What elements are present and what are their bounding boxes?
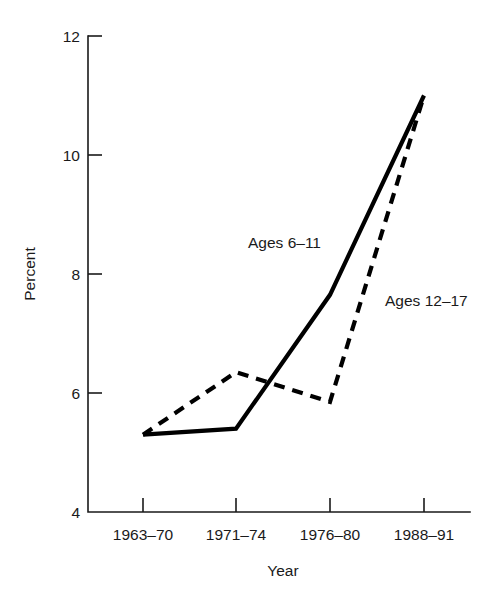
- line-chart-canvas: 12 10 8 6 4 Percent 1963–70 1971–74 1976…: [0, 0, 504, 598]
- x-axis-tick-label-1: 1971–74: [206, 526, 267, 543]
- y-axis-tick-label-8: 8: [71, 266, 80, 283]
- axis-spines: [88, 36, 470, 512]
- series-line-ages-6-11: [143, 96, 424, 435]
- x-axis-tick-label-2: 1976–80: [300, 526, 361, 543]
- x-axis-tick-label-0: 1963–70: [113, 526, 174, 543]
- y-axis-tick-label-6: 6: [71, 385, 80, 402]
- y-axis-tick-label-4: 4: [71, 504, 80, 521]
- chart-figure: 12 10 8 6 4 Percent 1963–70 1971–74 1976…: [0, 0, 504, 598]
- x-axis-tick-label-3: 1988–91: [394, 526, 454, 543]
- y-axis-tick-label-10: 10: [63, 147, 81, 164]
- x-axis-title: Year: [267, 562, 298, 579]
- series-label-ages-12-17: Ages 12–17: [385, 292, 468, 309]
- y-axis-title: Percent: [21, 247, 38, 301]
- series-label-ages-6-11: Ages 6–11: [248, 234, 321, 251]
- y-axis-tick-label-12: 12: [63, 28, 80, 45]
- series-line-ages-12-17: [143, 96, 424, 435]
